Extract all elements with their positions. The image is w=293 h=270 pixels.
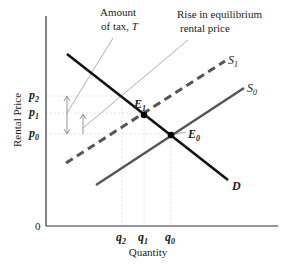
p1-tick-label: p1: [28, 105, 39, 121]
equilibrium-point-e0: [168, 132, 175, 139]
demand-label: D: [231, 179, 241, 193]
p0-tick-label: p0: [28, 126, 39, 142]
y-axis-title: Rental Price: [11, 93, 23, 147]
tax-annotation-line2: of tax, T: [101, 20, 139, 32]
tax-arrow-icon: [64, 96, 70, 134]
origin-label: 0: [35, 220, 41, 232]
guide-lines: [46, 96, 171, 226]
tax-annotation-line1: Amount: [100, 6, 136, 18]
q0-tick-label: q0: [165, 230, 175, 246]
e0-label: E0: [187, 127, 200, 143]
tax-leader-line: [67, 38, 113, 113]
p2-tick-label: p2: [28, 88, 39, 104]
rise-leader-line: [83, 40, 188, 128]
axes: [46, 16, 278, 226]
demand-curve: [67, 54, 228, 180]
rise-annotation-line1: Rise in equilibrium: [177, 8, 262, 20]
rise-arrow-icon: [80, 114, 86, 134]
e1-label: E1: [133, 97, 146, 113]
rise-annotation-line2: rental price: [180, 22, 230, 34]
q1-tick-label: q1: [138, 230, 148, 246]
s1-label: S1: [228, 53, 238, 69]
tax-incidence-diagram: S1 S0 D E1 E0 p2 p1 p0 q2 q1 q0 0 Quanti…: [0, 0, 293, 270]
s0-label: S0: [247, 81, 257, 97]
annotation-lines: [67, 38, 188, 134]
x-axis-title: Quantity: [129, 246, 168, 258]
q2-tick-label: q2: [116, 230, 126, 246]
